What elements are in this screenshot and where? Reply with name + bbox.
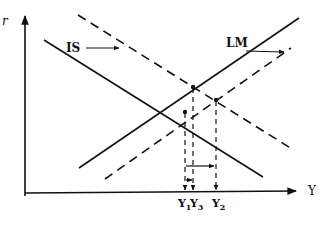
x-axis [25, 191, 296, 193]
is-curve [44, 40, 263, 177]
lm-curve-shifted [105, 48, 291, 179]
lm-label: LM [226, 36, 248, 50]
y-axis-label: r [2, 14, 9, 28]
lm-curve [79, 18, 299, 168]
tick-label-y3: Y3 [189, 197, 204, 212]
x-axis-label: Y [307, 184, 317, 198]
is-lm-diagram: r Y IS LM Y1 Y3 Y2 [0, 0, 327, 225]
is-label: IS [66, 41, 80, 55]
lm-shift-arrow [246, 51, 284, 52]
tick-label-y2: Y2 [211, 197, 225, 212]
